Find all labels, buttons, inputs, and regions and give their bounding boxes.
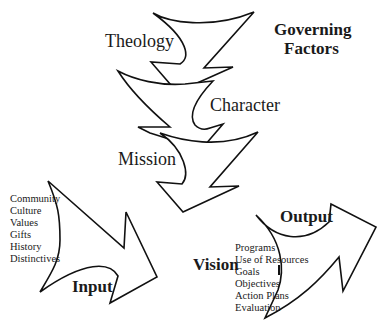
input-item: Culture [10, 205, 60, 217]
theology-label: Theology [105, 32, 174, 50]
output-item: Action Plans [235, 290, 308, 302]
input-item: Values [10, 217, 60, 229]
vision-label: Vision [193, 256, 239, 273]
input-items-list: Community Culture Values Gifts History D… [10, 193, 60, 265]
governing-title-line1: Governing [274, 21, 351, 38]
output-item: Goals [235, 266, 308, 278]
output-items-list: Programs Use of Resources Goals Objectiv… [235, 242, 308, 314]
input-item: History [10, 241, 60, 253]
character-label: Character [210, 96, 280, 114]
governing-title-line2: Factors [284, 40, 339, 57]
input-item: Community [10, 193, 60, 205]
mission-label: Mission [118, 150, 176, 168]
theology-arrow-icon [151, 12, 254, 92]
input-item: Gifts [10, 229, 60, 241]
output-item: Use of Resources [235, 254, 308, 266]
input-label: Input [72, 278, 113, 295]
output-item: Programs [235, 242, 308, 254]
input-item: Distinctives [10, 253, 60, 265]
vision-diagram: Theology Character Mission Governing Fac… [0, 0, 383, 331]
output-item: Evaluation [235, 302, 308, 314]
output-label: Output [280, 208, 333, 225]
output-item: Objectives [235, 278, 308, 290]
mission-arrow-icon [157, 132, 258, 212]
